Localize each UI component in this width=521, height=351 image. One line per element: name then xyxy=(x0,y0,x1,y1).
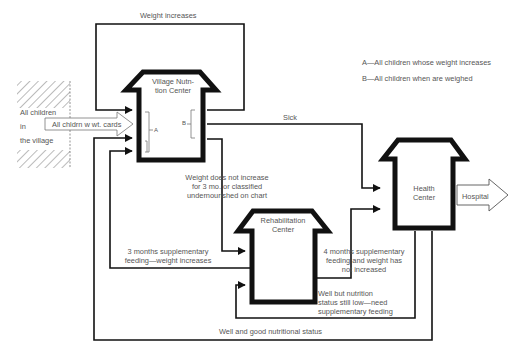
health-center-line-2: Center xyxy=(398,193,450,202)
village-label: All children in the village xyxy=(20,106,56,148)
well-low-line-1: Well but nutrition xyxy=(318,289,393,298)
label-four-months: 4 months supplementary feeding and weigh… xyxy=(318,247,410,275)
village-center-line-2: tion Center xyxy=(145,86,201,95)
not-increase-line-2: for 3 mo. or classified xyxy=(176,182,278,191)
village-center-line-1: Village Nutn- xyxy=(145,77,201,86)
label-well-low: Well but nutrition status still low—need… xyxy=(318,289,393,317)
rehab-center-line-1: Rehabilitation xyxy=(253,216,313,225)
legend-b: B—All children when are weighed xyxy=(362,74,473,83)
label-sick: Sick xyxy=(283,113,297,122)
rehab-center-label: Rehabilitation Center xyxy=(253,216,313,234)
hospital-label: Hospital xyxy=(462,192,489,201)
well-low-line-3: supplementary feeding xyxy=(318,307,393,316)
label-cards: All chldrn w wt. cards xyxy=(52,120,121,129)
village-line-2: in xyxy=(20,120,56,134)
village-line-1: All children xyxy=(20,106,56,120)
label-not-increase: Weight does not increase for 3 mo. or cl… xyxy=(176,173,278,201)
label-well-good: Well and good nutritional status xyxy=(219,327,322,336)
village-center-label: Village Nutn- tion Center xyxy=(145,77,201,95)
three-months-line-2: feeding—weight increases xyxy=(118,256,218,265)
four-months-line-1: 4 months supplementary xyxy=(318,247,410,256)
four-months-line-2: feeding and weight has xyxy=(318,256,410,265)
well-low-line-2: status still low—need xyxy=(318,298,393,307)
health-center-label: Health Center xyxy=(398,184,450,202)
three-months-line-1: 3 months supplementary xyxy=(118,247,218,256)
legend-a: A—All children whose weight increases xyxy=(362,58,491,67)
label-weight-increases: Weight increases xyxy=(140,11,197,20)
label-three-months: 3 months supplementary feeding—weight in… xyxy=(118,247,218,265)
four-months-line-3: not increased xyxy=(318,265,410,274)
not-increase-line-3: undernourished on chart xyxy=(176,191,278,200)
health-center-line-1: Health xyxy=(398,184,450,193)
rehab-center-line-2: Center xyxy=(253,225,313,234)
not-increase-line-1: Weight does not increase xyxy=(176,173,278,182)
marker-a: A xyxy=(154,126,158,135)
marker-b: B xyxy=(182,119,186,128)
village-line-3: the village xyxy=(20,134,56,148)
